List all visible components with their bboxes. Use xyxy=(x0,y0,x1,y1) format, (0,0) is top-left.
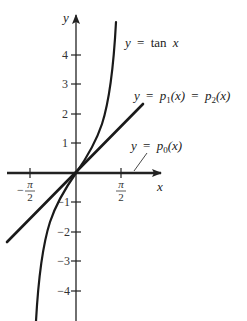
svg-text:2: 2 xyxy=(27,191,33,203)
x-tick-neg-pi-half: − π 2 xyxy=(17,178,35,203)
y-tick-3: 3 xyxy=(62,77,68,91)
chart-canvas: 4 3 2 1 −1 −2 −3 −4 − π 2 π 2 y x y = ta… xyxy=(0,0,247,321)
svg-text:π: π xyxy=(118,178,124,190)
svg-text:−: − xyxy=(17,183,24,197)
y-tick-neg4: −4 xyxy=(57,284,70,298)
y-tick-1: 1 xyxy=(62,136,68,150)
svg-text:2: 2 xyxy=(118,191,124,203)
y-tick-2: 2 xyxy=(62,107,68,121)
p0-leader-line xyxy=(134,153,147,171)
y-tick-neg3: −3 xyxy=(57,254,70,268)
tan-label: y = tan x xyxy=(123,35,179,50)
x-axis-label: x xyxy=(156,179,163,194)
y-tick-neg2: −2 xyxy=(57,225,70,239)
x-tick-pi-half: π 2 xyxy=(116,178,126,203)
y-tick-4: 4 xyxy=(62,48,68,62)
y-axis-label: y xyxy=(61,10,69,25)
svg-text:π: π xyxy=(27,178,33,190)
p0-label: y = p0(x) xyxy=(129,138,182,155)
p1-p2-label: y = p1(x) = p2(x) xyxy=(132,88,230,105)
